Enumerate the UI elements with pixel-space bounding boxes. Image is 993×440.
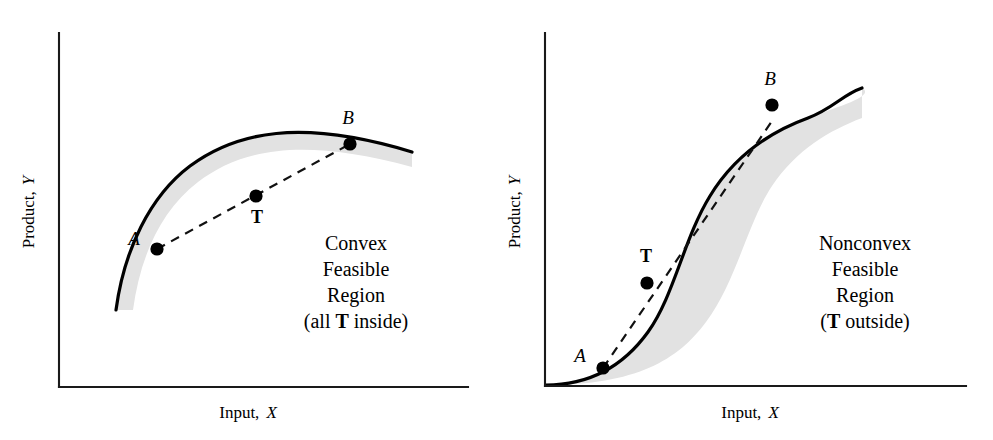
nonconvex-caption-line-4-post: outside): [840, 310, 909, 333]
nonconvex-x-axis-label-text: Input,: [721, 403, 761, 422]
convex-caption-line-3: Region: [327, 284, 385, 307]
nonconvex-point-T-dot: [640, 276, 653, 289]
figure-root: A T B Convex Feasible Region (all T insi…: [0, 0, 993, 440]
convex-x-axis-label-text: Input,: [219, 403, 259, 422]
convex-caption-line-4: (all T inside): [304, 310, 408, 333]
nonconvex-chart-svg: A T B Nonconvex Feasible Region (T outsi…: [496, 0, 993, 440]
nonconvex-y-axis-label-var: Y: [505, 174, 524, 185]
convex-point-A-dot: [150, 242, 163, 255]
nonconvex-y-axis-label: Product,Y: [505, 174, 524, 248]
nonconvex-point-B-dot: [765, 98, 778, 111]
nonconvex-point-A-label: A: [572, 345, 586, 366]
nonconvex-feasible-region-shading: [546, 88, 865, 385]
convex-caption-line-1: Convex: [325, 232, 387, 254]
convex-x-axis-label-var: X: [265, 403, 277, 422]
panel-nonconvex-feasible-region: A T B Nonconvex Feasible Region (T outsi…: [496, 0, 993, 440]
convex-y-axis-label-text: Product,: [19, 191, 38, 248]
convex-point-T-dot: [249, 189, 262, 202]
convex-y-axis-label: Product,Y: [19, 174, 38, 248]
nonconvex-caption-line-4: (T outside): [820, 310, 909, 333]
convex-point-A-label: A: [126, 228, 140, 249]
convex-y-axis-label-var: Y: [19, 174, 38, 185]
nonconvex-point-B-label: B: [764, 68, 776, 89]
nonconvex-caption-line-2: Feasible: [832, 258, 899, 280]
convex-point-B-label: B: [342, 107, 354, 128]
convex-caption-line-2: Feasible: [323, 258, 390, 280]
panel-convex-feasible-region: A T B Convex Feasible Region (all T insi…: [0, 0, 496, 440]
convex-caption-line-4-bold: T: [335, 310, 349, 332]
nonconvex-caption-line-1: Nonconvex: [819, 232, 911, 254]
nonconvex-x-axis-label-var: X: [767, 403, 779, 422]
convex-x-axis-label: Input,X: [219, 403, 277, 422]
convex-chart-svg: A T B Convex Feasible Region (all T insi…: [0, 0, 496, 440]
convex-caption-line-4-pre: (all: [304, 310, 336, 333]
nonconvex-y-axis-label-text: Product,: [505, 191, 524, 248]
nonconvex-caption-line-3: Region: [836, 284, 894, 307]
nonconvex-x-axis-label: Input,X: [721, 403, 779, 422]
convex-point-B-dot: [343, 137, 356, 150]
nonconvex-caption-line-4-bold: T: [827, 310, 841, 332]
convex-point-T-label: T: [251, 207, 263, 227]
convex-caption-line-4-post: inside): [349, 310, 408, 333]
nonconvex-point-T-label: T: [640, 246, 652, 266]
nonconvex-point-A-dot: [596, 361, 609, 374]
